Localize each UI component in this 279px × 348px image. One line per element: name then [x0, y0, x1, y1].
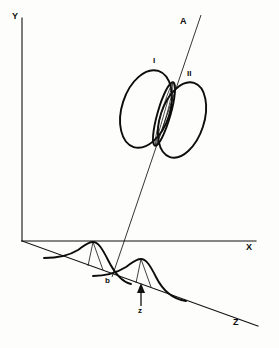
drop-line-peak-two-left [136, 259, 141, 283]
y-axis-label: Y [12, 12, 18, 21]
orbit-loop-ii [149, 76, 215, 164]
drop-line-peak-one-right [93, 242, 103, 270]
z-position-label: z [138, 307, 142, 315]
drop-line-peak-one-left [88, 242, 93, 266]
figure-canvas: Y X Z A I II b z [0, 0, 279, 348]
orbit-loop-i-label: I [153, 57, 155, 65]
profile-peak-one [44, 242, 131, 284]
inclined-axis-a-label: A [180, 17, 187, 26]
z-axis-label: Z [233, 318, 239, 327]
drop-line-peak-two-right [141, 259, 151, 287]
impact-parameter-b-label: b [105, 277, 110, 285]
lens-overlap-group [149, 80, 180, 147]
orbit-loop-i [111, 64, 181, 155]
diagram-svg [0, 0, 279, 348]
orbit-loop-ii-label: II [187, 70, 191, 78]
x-axis-label: X [246, 243, 252, 252]
